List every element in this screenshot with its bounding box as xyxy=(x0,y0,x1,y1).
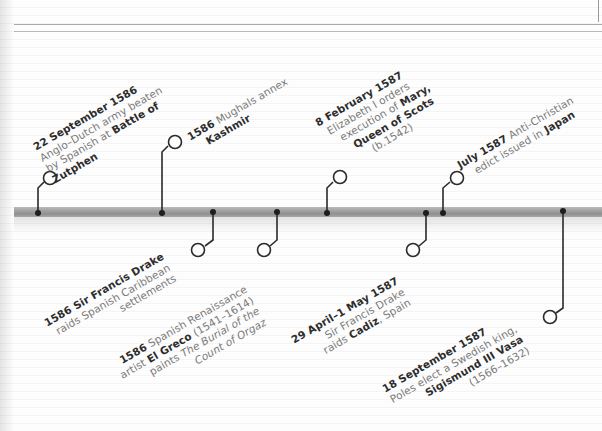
timeline-dot-icon xyxy=(274,209,280,215)
timeline-dot-icon xyxy=(210,209,216,215)
timeline-dot-icon xyxy=(560,208,566,214)
event-marker-icon xyxy=(169,136,182,149)
timeline-dot-icon xyxy=(440,210,446,216)
connector-1586-kashmir xyxy=(162,136,182,213)
connector-8-feb-1587 xyxy=(327,171,347,213)
event-marker-icon xyxy=(258,244,271,257)
timeline-dots xyxy=(35,208,566,216)
event-marker-icon xyxy=(334,171,347,184)
connector-cadiz xyxy=(407,212,427,257)
connector-el-greco xyxy=(258,212,278,257)
connector-july-1587 xyxy=(443,172,464,213)
event-marker-icon xyxy=(451,172,464,185)
timeline-dot-icon xyxy=(423,210,429,216)
connector-drake-caribbean xyxy=(192,212,214,257)
event-marker-icon xyxy=(407,244,420,257)
timeline-dot-icon xyxy=(159,210,165,216)
connector-sigismund xyxy=(544,212,564,324)
timeline-connectors xyxy=(0,0,602,431)
event-marker-icon xyxy=(192,244,205,257)
timeline-page: 22 September 1586 Anglo–Dutch army beate… xyxy=(0,0,602,431)
timeline-dot-icon xyxy=(35,210,41,216)
timeline-dot-icon xyxy=(324,210,330,216)
event-marker-icon xyxy=(544,311,557,324)
